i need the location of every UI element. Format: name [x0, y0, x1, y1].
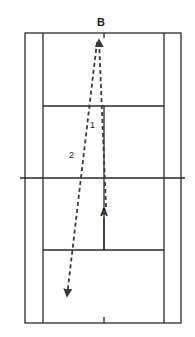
point-a-label: A: [100, 207, 108, 218]
point-b-label: B: [97, 17, 105, 28]
shot-path-2: [67, 42, 97, 296]
path-1-label: 1: [90, 121, 95, 130]
court-lines: [20, 33, 185, 323]
shot-path-1: [99, 40, 106, 207]
path-2-label: 2: [69, 151, 74, 160]
tennis-court-diagram: B A 1 2: [0, 0, 195, 337]
shot-paths: [67, 40, 106, 296]
court-svg: [0, 0, 195, 337]
